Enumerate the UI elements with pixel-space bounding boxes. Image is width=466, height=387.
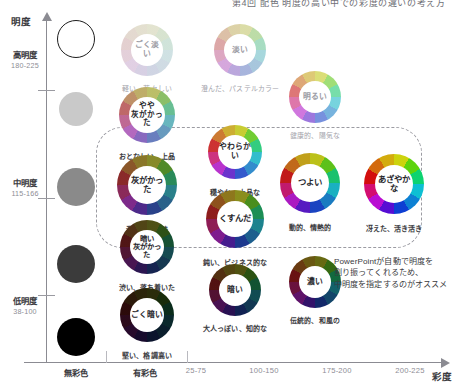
- tone-label-kurai-haigakatta: 暗い灰がかった: [130, 230, 164, 264]
- grayscale-swatch-light-gray: [59, 92, 93, 126]
- tone-chart-canvas: 第4回 配色 明度の高い中での彩度の違いの考え方 明度 彩度 高明度180-22…: [0, 0, 466, 387]
- tone-wheel-akarui: 明るい: [289, 71, 341, 123]
- brightness-group-name: 高明度: [4, 50, 46, 61]
- tone-wheel-yaya-haigakatta: やや灰がかった: [119, 87, 175, 143]
- tone-title-line: 灰がかった: [130, 243, 164, 260]
- saturation-axis-line: [24, 362, 444, 363]
- tone-cell-kurai: 暗い大人っぽい、知的な: [209, 264, 261, 316]
- powerpoint-annotation: PowerPointが自動で明度を 割り振ってくれるため、 中明度を指定するのが…: [334, 256, 447, 290]
- tone-label-akarui: 明るい: [299, 81, 331, 113]
- tone-wheel-yawarakai: やわらかい: [208, 125, 262, 179]
- tone-wheel-kurai: 暗い: [209, 264, 261, 316]
- tone-wheel-gokukurai: ごく暗い: [120, 288, 174, 342]
- grayscale-swatch-black: [57, 318, 95, 356]
- brightness-group-name: 低明度: [4, 296, 46, 307]
- annotation-line-2: 割り振ってくれるため、: [334, 267, 447, 278]
- grayscale-swatch-mid-gray: [57, 168, 95, 206]
- tone-label-koi: 濃い: [299, 266, 331, 298]
- tone-title-line: くすんだ: [219, 214, 251, 223]
- brightness-group-range: 115-166: [4, 189, 46, 199]
- saturation-label-3: 100-150: [224, 366, 304, 375]
- tone-title-line: 灰がかった: [128, 176, 166, 195]
- tone-label-yawarakai: やわらかい: [218, 135, 252, 169]
- saturation-divider-0: [106, 351, 107, 363]
- brightness-group-name: 中明度: [4, 178, 46, 189]
- tone-label-gokuusui: ごく淡い: [131, 34, 163, 66]
- brightness-group-range: 38-100: [4, 307, 46, 317]
- annotation-line-1: PowerPointが自動で明度を: [334, 256, 447, 267]
- tone-cell-yawarakai: やわらかい穏やか、上品な: [208, 125, 262, 179]
- tone-cell-usui: 淡い澄んだ、パステルカラー: [214, 24, 266, 76]
- tone-title-line: やわらかい: [218, 143, 252, 160]
- tone-label-azayakana: あざやかな: [375, 165, 413, 203]
- tone-cell-haigakatta: 灰がかった濁った、地味: [117, 155, 177, 215]
- brightness-tick-0: [38, 90, 55, 91]
- grayscale-swatch-dark-gray: [57, 245, 95, 283]
- tone-title-line: つよい: [298, 178, 322, 187]
- tone-label-tsuyoi: つよい: [291, 164, 329, 202]
- tone-wheel-tsuyoi: つよい: [280, 153, 340, 213]
- clipped-headline: 第4回 配色 明度の高い中での彩度の違いの考え方: [232, 0, 466, 7]
- grayscale-swatch-white: [57, 20, 95, 58]
- brightness-axis-title: 明度: [11, 14, 32, 28]
- brightness-group-1: 中明度115-166: [4, 178, 46, 199]
- brightness-group-range: 180-225: [4, 61, 46, 71]
- tone-label-usui: 淡い: [224, 34, 256, 66]
- saturation-label-4: 175-200: [297, 366, 377, 375]
- tone-cell-azayakana: あざやかな冴えた、活き活き: [364, 154, 424, 214]
- tone-caption-kurai: 大人っぽい、知的な: [203, 323, 267, 333]
- tone-label-kurai: 暗い: [219, 274, 251, 306]
- brightness-axis-arrow: [42, 12, 52, 21]
- tone-wheel-kusunda: くすんだ: [206, 190, 264, 248]
- brightness-axis-line: [46, 18, 47, 363]
- tone-cell-yaya-haigakatta: やや灰がかったおとなしい、上品: [119, 87, 175, 143]
- saturation-label-5: 200-225: [370, 366, 450, 375]
- tone-title-line: 暗い: [227, 286, 243, 295]
- tone-title-line: ごく暗い: [131, 311, 163, 320]
- tone-cell-akarui: 明るい健康的、陽気な: [289, 71, 341, 123]
- tone-title-line: 淡い: [232, 46, 248, 55]
- tone-title-line: 濃い: [307, 278, 323, 287]
- tone-cell-kusunda: くすんだ鈍い、ビジネス的な: [206, 190, 264, 248]
- tone-cell-tsuyoi: つよい動的、情熱的: [280, 153, 340, 213]
- tone-wheel-azayakana: あざやかな: [364, 154, 424, 214]
- saturation-divider-1: [187, 351, 188, 363]
- tone-wheel-kurai-haigakatta: 暗い灰がかった: [120, 220, 174, 274]
- annotation-line-3: 中明度を指定するのがオススメ: [334, 279, 447, 290]
- brightness-group-2: 低明度38-100: [4, 296, 46, 317]
- tone-caption-gokukurai: 堅い、格調高い: [122, 350, 172, 360]
- tone-title-line: あざやかな: [375, 175, 413, 194]
- tone-label-gokukurai: ごく暗い: [130, 298, 164, 332]
- tone-cell-gokuusui: ごく淡い軽い、若々しい: [121, 24, 173, 76]
- tone-wheel-gokuusui: ごく淡い: [121, 24, 173, 76]
- saturation-label-0: 無彩色: [36, 366, 116, 378]
- tone-cell-gokukurai: ごく暗い堅い、格調高い: [120, 288, 174, 342]
- tone-caption-usui: 澄んだ、パステルカラー: [201, 83, 279, 93]
- tone-title-line: 明るい: [303, 93, 327, 102]
- tone-caption-tsuyoi: 動的、情熱的: [289, 222, 332, 232]
- tone-title-line: ごく淡い: [131, 41, 163, 58]
- tone-caption-akarui: 健康的、陽気な: [290, 130, 340, 140]
- tone-cell-kurai-haigakatta: 暗い灰がかった渋い、落ち着いた: [120, 220, 174, 274]
- tone-caption-azayakana: 冴えた、活き活き: [366, 223, 423, 233]
- tone-wheel-usui: 淡い: [214, 24, 266, 76]
- brightness-group-0: 高明度180-225: [4, 50, 46, 71]
- tone-label-kusunda: くすんだ: [217, 201, 253, 237]
- tone-label-haigakatta: 灰がかった: [128, 166, 166, 204]
- tone-title-line: 灰がかった: [129, 111, 165, 128]
- tone-label-yaya-haigakatta: やや灰がかった: [129, 97, 165, 133]
- tone-caption-koi: 伝統的、和風の: [290, 315, 340, 325]
- tone-wheel-haigakatta: 灰がかった: [117, 155, 177, 215]
